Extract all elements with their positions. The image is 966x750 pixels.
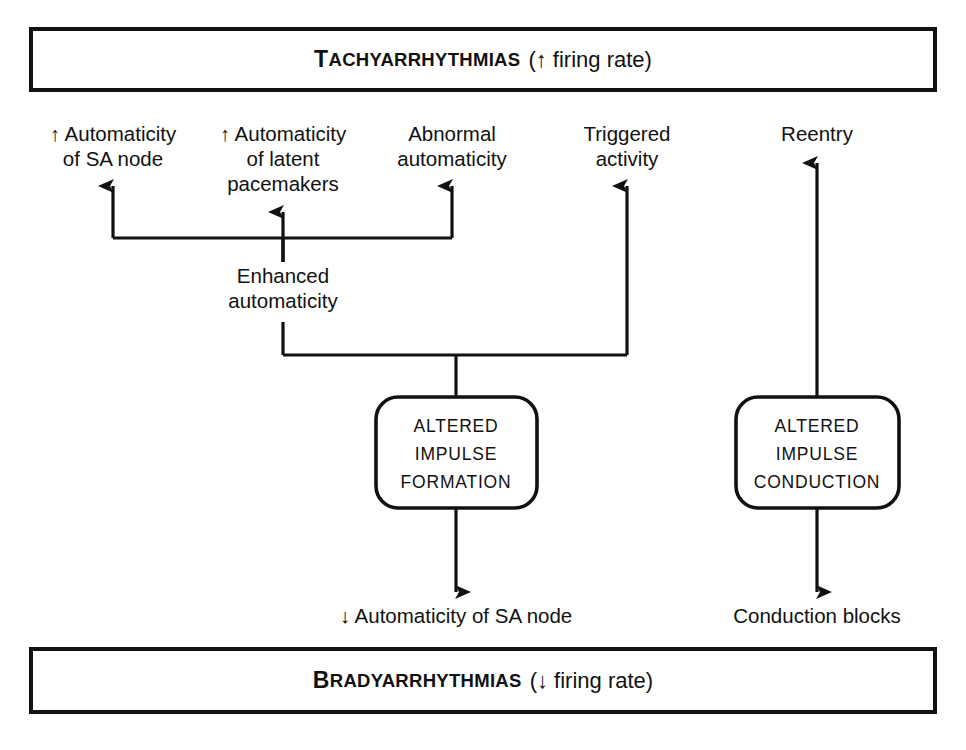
outcome-label-conduction-blocks: Conduction blocks (733, 604, 901, 627)
mechanism-label-reentry: Reentry (781, 122, 854, 145)
mechanism-line-1: Triggered (584, 122, 671, 145)
outcome-label-decreased-automaticity-sa-node: ↓ Automaticity of SA node (340, 604, 572, 627)
tachyarrhythmias-banner: TACHYARRHYTHMIAS(↑ firing rate) (31, 29, 935, 90)
mechanism-line-3: pacemakers (227, 172, 339, 195)
mechanism-line-2: of latent (247, 147, 320, 170)
box-line-3: FORMATION (401, 472, 512, 492)
enhanced-automaticity-upper-bracket (113, 186, 452, 262)
mechanism-line-2: of SA node (63, 147, 163, 170)
mechanism-line-1: Reentry (781, 122, 854, 145)
mechanism-line-2: automaticity (397, 147, 507, 170)
mechanism-line-1: Abnormal (408, 122, 496, 145)
mechanism-label-triggered-activity: Triggered activity (584, 122, 671, 170)
box-line-1: ALTERED (774, 416, 859, 436)
flowchart-canvas: TACHYARRHYTHMIAS(↑ firing rate) ↑ Automa… (0, 0, 966, 750)
altered-impulse-formation-box: ALTERED IMPULSE FORMATION (376, 397, 537, 508)
mechanism-line-1: ↑ Automaticity (50, 122, 177, 145)
enhanced-automaticity-line-1: Enhanced (237, 264, 329, 287)
enhanced-automaticity-label: Enhanced automaticity (228, 264, 338, 312)
mechanism-line-2: activity (596, 147, 659, 170)
enhanced-automaticity-line-2: automaticity (228, 289, 338, 312)
box-line-2: IMPULSE (776, 444, 858, 464)
mechanism-label-automaticity-latent-pacemakers: ↑ Automaticity of latent pacemakers (220, 122, 347, 195)
box-line-3: CONDUCTION (754, 472, 881, 492)
box-line-1: ALTERED (413, 416, 498, 436)
bradyarrhythmias-banner-label: BRADYARRHYTHMIAS(↓ firing rate) (313, 667, 653, 693)
mechanism-label-abnormal-automaticity: Abnormal automaticity (397, 122, 507, 170)
tachyarrhythmias-banner-label: TACHYARRHYTHMIAS(↑ firing rate) (314, 46, 652, 72)
bradyarrhythmias-banner: BRADYARRHYTHMIAS(↓ firing rate) (31, 649, 935, 712)
box-line-2: IMPULSE (415, 444, 497, 464)
altered-impulse-conduction-box: ALTERED IMPULSE CONDUCTION (736, 397, 899, 508)
mechanism-label-automaticity-sa-node: ↑ Automaticity of SA node (50, 122, 177, 170)
mechanism-line-1: ↑ Automaticity (220, 122, 347, 145)
arrhythmia-mechanism-diagram: TACHYARRHYTHMIAS(↑ firing rate) ↑ Automa… (0, 0, 966, 750)
